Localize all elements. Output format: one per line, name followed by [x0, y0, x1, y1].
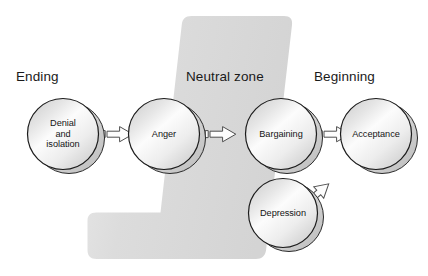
change-curve-diagram: Ending Neutral zone Beginning Denial and… [0, 0, 428, 276]
zone-label-ending: Ending [16, 70, 59, 84]
node-acceptance [341, 99, 418, 174]
zone-label-beginning: Beginning [314, 70, 375, 84]
diagram-canvas [0, 0, 428, 276]
zone-label-neutral-zone: Neutral zone [186, 70, 264, 84]
node-denial [28, 99, 105, 174]
